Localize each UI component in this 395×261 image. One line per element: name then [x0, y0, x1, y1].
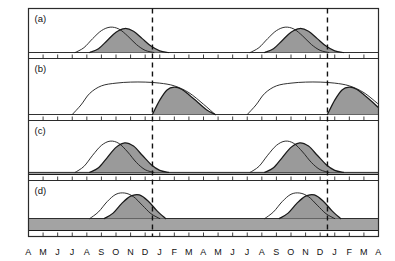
panel-label-b: (b) — [35, 63, 47, 74]
x-axis-month-label: J — [70, 247, 75, 257]
x-axis-month-label: J — [55, 247, 60, 257]
x-axis-month-label: F — [171, 247, 177, 257]
x-axis-month-label: M — [39, 247, 47, 257]
seed-bank-figure: (a)(b)(c)(d) AMJJASONDJFMAMJJASONDJFMA — [0, 0, 395, 261]
x-axis-month-label: A — [25, 247, 31, 257]
x-axis-month-label: D — [317, 247, 324, 257]
panel-label-a: (a) — [35, 13, 47, 24]
x-axis-month-label: A — [375, 247, 381, 257]
x-axis-month-label: A — [200, 247, 206, 257]
x-axis-month-label: J — [332, 247, 337, 257]
x-axis-month-label: N — [127, 247, 134, 257]
x-axis-month-label: J — [245, 247, 250, 257]
x-axis-month-label: A — [84, 247, 90, 257]
x-axis-month-label: M — [185, 247, 193, 257]
x-axis-month-label: O — [287, 247, 294, 257]
x-axis-month-label: J — [230, 247, 235, 257]
x-axis-month-label: O — [112, 247, 119, 257]
x-axis-month-label: M — [360, 247, 368, 257]
panel-label-d: (d) — [35, 185, 47, 196]
panel-label-c: (c) — [35, 125, 46, 136]
x-axis-month-label: D — [142, 247, 149, 257]
x-axis-month-label: A — [259, 247, 265, 257]
x-axis-month-label: J — [157, 247, 162, 257]
x-axis-month-label: M — [214, 247, 222, 257]
x-axis-month-label: N — [302, 247, 309, 257]
persistent-seed-bank-band — [29, 219, 379, 231]
x-axis-month-label: S — [98, 247, 104, 257]
x-axis-month-label: S — [273, 247, 279, 257]
x-axis-month-label: F — [346, 247, 352, 257]
